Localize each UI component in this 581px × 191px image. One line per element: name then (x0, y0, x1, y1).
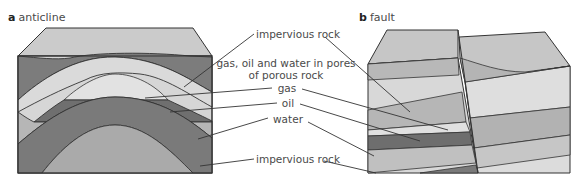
figure-b-title: bfault (359, 11, 396, 24)
trap-diagram: aanticline bfault (0, 0, 581, 191)
label-gas: gas (278, 82, 297, 94)
figure-a-title: aanticline (8, 11, 66, 24)
label-porous-rock-line1: gas, oil and water in pores (216, 57, 355, 69)
label-impervious-rock-bottom: impervious rock (256, 153, 341, 165)
label-porous-rock-line2: of porous rock (249, 69, 325, 81)
label-oil: oil (282, 97, 294, 109)
label-impervious-rock-top: impervious rock (256, 28, 341, 40)
label-water: water (273, 113, 304, 125)
anticline-block (18, 28, 212, 173)
